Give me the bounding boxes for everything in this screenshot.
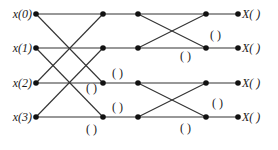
node: [235, 80, 241, 86]
blank-coefficient-label: ( ): [112, 100, 123, 114]
input-label: x(2): [12, 76, 32, 90]
blank-coefficient-label: ( ): [210, 28, 221, 42]
output-label: X( ): [241, 7, 260, 21]
output-label: X( ): [241, 76, 260, 90]
node: [100, 80, 106, 86]
node: [203, 80, 209, 86]
twiddle-blank-labels: ( ) ( ) ( ) ( ) ( ) ( ) ( ) ( ): [86, 28, 223, 136]
node: [235, 114, 241, 120]
stage2-cross-wires: [138, 14, 206, 117]
input-label: x(1): [12, 41, 32, 55]
node: [235, 11, 241, 17]
blank-coefficient-label: ( ): [112, 66, 123, 80]
blank-coefficient-label: ( ): [180, 121, 191, 135]
node: [203, 114, 209, 120]
blank-coefficient-label: ( ): [86, 122, 97, 136]
input-labels: x(0) x(1) x(2) x(3): [12, 7, 32, 124]
input-label: x(3): [12, 110, 32, 124]
node: [33, 114, 39, 120]
node: [135, 114, 141, 120]
node: [100, 45, 106, 51]
node: [135, 80, 141, 86]
blank-coefficient-label: ( ): [180, 49, 191, 63]
horizontal-wires: [36, 14, 238, 117]
output-label: X( ): [241, 110, 260, 124]
blank-coefficient-label: ( ): [86, 81, 97, 95]
node: [33, 11, 39, 17]
node: [203, 45, 209, 51]
node: [33, 80, 39, 86]
node: [235, 45, 241, 51]
blank-coefficient-label: ( ): [212, 96, 223, 110]
output-label: X( ): [241, 41, 260, 55]
node: [100, 114, 106, 120]
node: [135, 11, 141, 17]
stage1-cross-wires: [36, 14, 103, 117]
output-labels: X( ) X( ) X( ) X( ): [241, 7, 260, 124]
node: [100, 11, 106, 17]
node: [33, 45, 39, 51]
node: [203, 11, 209, 17]
butterfly-diagram: x(0) x(1) x(2) x(3) X( ) X( ) X( ) X( ) …: [0, 0, 278, 150]
input-label: x(0): [12, 7, 32, 21]
node: [135, 45, 141, 51]
